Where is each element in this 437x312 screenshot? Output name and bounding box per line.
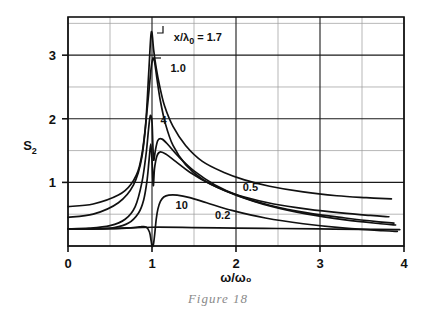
- curve-label-1-7: x/λ0 = 1.7: [174, 31, 222, 46]
- x-axis-title: ω/ω₀: [220, 270, 252, 285]
- x-tick-label: 1: [148, 256, 155, 271]
- x-tick-label: 4: [400, 256, 408, 271]
- curve-4: [68, 115, 394, 228]
- curve-label-0-5: 0.5: [243, 181, 258, 193]
- x-tick-label: 0: [64, 256, 71, 271]
- curve-0-5: [68, 144, 396, 229]
- figure-container: x/λ0 = 1.71.040.5100.2 01234 123 S2 ω/ω₀…: [0, 0, 437, 312]
- curve-labels: x/λ0 = 1.71.040.5100.2: [160, 31, 258, 220]
- x-axis-tick-labels: 01234: [64, 256, 408, 271]
- y-axis-title: S2: [23, 138, 37, 156]
- figure-svg: x/λ0 = 1.71.040.5100.2 01234 123 S2 ω/ω₀…: [0, 0, 437, 312]
- y-tick-label: 3: [49, 48, 56, 63]
- curve-label-10: 10: [176, 199, 188, 211]
- curve-1-0: [68, 58, 389, 217]
- y-tick-label: 1: [49, 175, 56, 190]
- axis-ticks: [62, 55, 404, 252]
- x-tick-label: 2: [232, 256, 239, 271]
- x-tick-label: 3: [316, 256, 323, 271]
- svg-text:ω/ω₀: ω/ω₀: [220, 270, 252, 285]
- curve-label-4: 4: [160, 114, 167, 126]
- curve-label-0-2: 0.2: [215, 209, 230, 221]
- y-axis-tick-labels: 123: [49, 48, 56, 190]
- figure-caption: Figure 18: [187, 291, 248, 306]
- curve-label-1-0: 1.0: [170, 62, 185, 74]
- y-tick-label: 2: [49, 112, 56, 127]
